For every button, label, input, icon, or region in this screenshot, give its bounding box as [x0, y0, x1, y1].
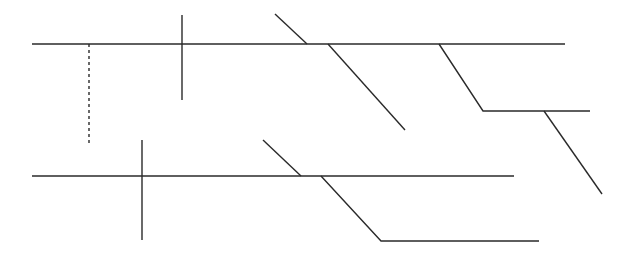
line-diagram-canvas — [0, 0, 628, 255]
diagram-background — [0, 0, 628, 255]
line-diagram — [0, 0, 628, 255]
